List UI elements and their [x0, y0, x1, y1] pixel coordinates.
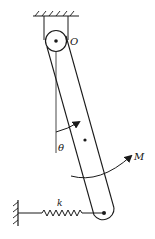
- moment-label: M: [133, 151, 145, 162]
- wall-hatching: [13, 202, 18, 224]
- lower-pin-dot: [102, 211, 106, 215]
- bar-left-edge: [47, 47, 94, 215]
- theta-label: θ: [58, 142, 64, 153]
- pivot-label: O: [70, 36, 78, 47]
- wall-support: [13, 200, 18, 226]
- center-of-mass-dot: [83, 138, 86, 141]
- theta-arc-arrow: [56, 122, 79, 132]
- bar-right-edge: [66, 36, 114, 208]
- pendulum-spring-diagram: O θ M k: [0, 0, 155, 239]
- pivot-dot: [54, 39, 58, 43]
- ceiling-hatching: [35, 11, 74, 16]
- pendulum-bar: [47, 36, 114, 220]
- pivot-o: [46, 31, 67, 52]
- spring-label: k: [57, 198, 62, 208]
- spring: [18, 210, 104, 216]
